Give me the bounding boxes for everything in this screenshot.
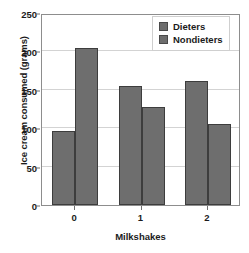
- y-tick-mark: [36, 14, 40, 15]
- legend-item-nondieters: Nondieters: [159, 33, 223, 46]
- y-tick-label: 100: [1, 124, 37, 135]
- y-tick-mark: [36, 90, 40, 91]
- legend-label: Nondieters: [173, 34, 223, 45]
- x-tick-label: 2: [187, 212, 227, 223]
- bar-nondieters-1: [142, 107, 165, 205]
- legend-label: Dieters: [173, 21, 205, 32]
- y-axis-title: Ice cream consumed (grams): [18, 16, 29, 186]
- bar-nondieters-2: [208, 124, 231, 205]
- y-tick-label: 150: [1, 85, 37, 96]
- y-tick-mark: [36, 52, 40, 53]
- bar-dieters-1: [119, 86, 142, 205]
- y-tick-label: 0: [1, 201, 37, 212]
- legend-swatch-icon: [159, 22, 168, 31]
- x-tick-mark: [141, 206, 142, 210]
- bar-chart-figure: Ice cream consumed (grams) 0501001502002…: [0, 0, 249, 253]
- legend-item-dieters: Dieters: [159, 20, 223, 33]
- y-tick-mark: [36, 167, 40, 168]
- bar-dieters-2: [185, 81, 208, 205]
- x-tick-label: 0: [54, 212, 94, 223]
- y-tick-mark: [36, 129, 40, 130]
- legend-swatch-icon: [159, 35, 168, 44]
- y-tick-mark: [36, 206, 40, 207]
- x-tick-label: 1: [121, 212, 161, 223]
- bar-nondieters-0: [75, 48, 98, 205]
- bar-dieters-0: [52, 131, 75, 205]
- x-axis-title: Milkshakes: [41, 231, 240, 242]
- y-tick-label: 200: [1, 47, 37, 58]
- y-tick-label: 250: [1, 9, 37, 20]
- x-tick-mark: [207, 206, 208, 210]
- chart-legend: DietersNondieters: [152, 16, 230, 51]
- y-tick-label: 50: [1, 162, 37, 173]
- x-tick-mark: [74, 206, 75, 210]
